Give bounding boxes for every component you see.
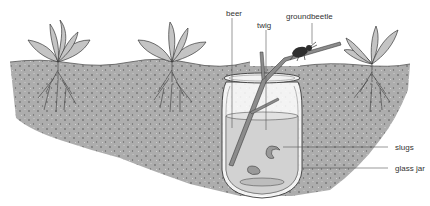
label-groundbeetle: groundbeetle: [286, 12, 333, 21]
label-beer: beer: [226, 9, 242, 18]
label-slugs: slugs: [395, 143, 414, 152]
soil: [10, 59, 410, 196]
slug-trap-diagram: [0, 0, 430, 206]
label-twig: twig: [257, 21, 271, 30]
label-glass-jar: glass jar: [395, 164, 425, 173]
leaves: [28, 20, 90, 62]
